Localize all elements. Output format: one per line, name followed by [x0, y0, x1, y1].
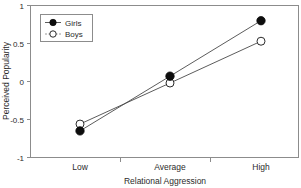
x-category-label-average: Average	[154, 162, 186, 172]
y-tick-label-neg0.5: -0.5	[10, 116, 24, 125]
y-axis-ticks	[27, 6, 31, 158]
x-category-label-high: High	[252, 162, 270, 172]
y-tick-label-1: 1	[20, 2, 25, 11]
x-axis-ticks	[121, 158, 211, 162]
boys-point-high	[257, 37, 265, 45]
x-axis-title: Relational Aggression	[124, 176, 206, 186]
girls-point-low	[76, 127, 84, 135]
legend-label-boys: Boys	[65, 30, 83, 39]
x-category-label-low: Low	[72, 162, 88, 172]
y-tick-label-neg1: -1	[17, 154, 25, 163]
y-tick-label-0: 0	[20, 78, 25, 87]
boys-data-markers	[76, 37, 265, 128]
legend-label-girls: Girls	[65, 19, 81, 28]
legend-marker-boys	[50, 31, 56, 37]
girls-data-markers	[76, 17, 265, 136]
y-tick-label-0.5: 0.5	[13, 40, 25, 49]
girls-point-average	[166, 72, 174, 80]
chart-figure: 1 0.5 0 -0.5 -1 Low Average High Relatio…	[0, 0, 301, 188]
line-chart: 1 0.5 0 -0.5 -1 Low Average High Relatio…	[0, 0, 301, 188]
chart-legend: Girls Boys	[41, 15, 93, 42]
girls-point-high	[257, 17, 265, 25]
legend-marker-girls	[50, 19, 56, 25]
y-axis-title: Perceived Popularity	[1, 41, 11, 120]
